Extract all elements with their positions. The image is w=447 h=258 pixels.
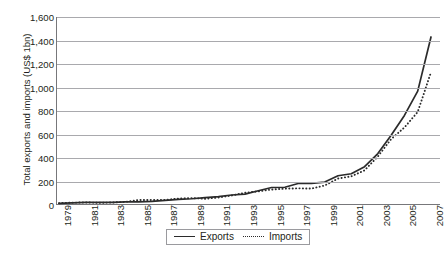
x-tick-label: 1991 [221, 205, 232, 226]
solid-line-icon [174, 236, 195, 237]
x-tick-label: 1999 [328, 205, 339, 226]
x-tick-label: 1995 [275, 205, 286, 226]
legend-label-exports: Exports [200, 231, 234, 242]
gridline [57, 88, 440, 89]
y-tick-label: 1,000 [30, 82, 54, 93]
x-tick-label: 1983 [115, 205, 126, 226]
dotted-line-icon [243, 236, 264, 237]
x-tick-label: 2005 [407, 205, 418, 226]
gridline [57, 182, 440, 183]
chart-legend: Exports Imports [166, 229, 310, 245]
x-tick-label: 1993 [248, 205, 259, 226]
x-tick-label: 1979 [62, 205, 73, 226]
series-line-imports [59, 72, 431, 203]
y-tick-label: 1,400 [30, 35, 54, 46]
x-tick-label: 2007 [434, 205, 445, 226]
x-tick-label: 1987 [168, 205, 179, 226]
x-tick-label: 2001 [354, 205, 365, 226]
legend-item-exports: Exports [174, 231, 234, 242]
y-tick-label: 1,200 [30, 59, 54, 70]
x-tick-label: 1997 [301, 205, 312, 226]
y-tick-label: 400 [38, 153, 54, 164]
y-tick-label: 200 [38, 176, 54, 187]
y-tick-label: 1,600 [30, 12, 54, 23]
gridline [57, 111, 440, 112]
plot-area [56, 17, 440, 205]
series-line-exports [59, 37, 431, 203]
chart-figure: Total exports and imports (US$ 1bn) 1,60… [0, 0, 447, 258]
x-tick-label: 1989 [195, 205, 206, 226]
y-tick-label: 800 [38, 106, 54, 117]
x-tick-label: 1985 [142, 205, 153, 226]
x-tick-label: 2003 [381, 205, 392, 226]
x-tick-label: 1981 [89, 205, 100, 226]
gridline [57, 135, 440, 136]
y-tick-label: 0 [49, 200, 54, 211]
legend-label-imports: Imports [269, 231, 302, 242]
legend-item-imports: Imports [243, 231, 302, 242]
gridline [57, 41, 440, 42]
gridline [57, 158, 440, 159]
gridline [57, 64, 440, 65]
y-tick-label: 600 [38, 129, 54, 140]
gridline [57, 17, 440, 18]
y-axis-tick-labels: 1,6001,4001,2001,0008006004002000 [8, 0, 54, 212]
